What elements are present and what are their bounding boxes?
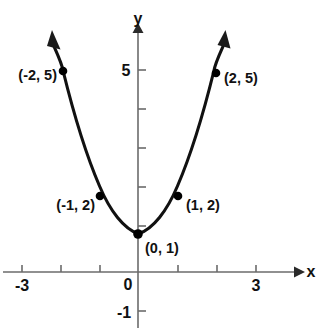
point-marker-0-1: [133, 229, 143, 239]
y-tick-label-5: 5: [122, 62, 131, 79]
point-label-neg1-2: (-1, 2): [56, 197, 95, 213]
point-label-neg2-5: (-2, 5): [18, 67, 57, 83]
point-marker-2-5: [212, 69, 221, 78]
origin-tick-label: 0: [124, 276, 133, 293]
x-tick-label-3: 3: [252, 277, 261, 294]
plot-background: [0, 0, 323, 328]
graph-figure: y x -3 3 0 5 -1 (-2, 5) (-1, 2) (0, 1) (…: [0, 0, 323, 328]
point-label-2-5: (2, 5): [224, 70, 258, 86]
x-axis-label: x: [307, 263, 316, 280]
y-axis-label: y: [134, 10, 143, 27]
point-marker-1-2: [174, 192, 183, 201]
point-marker-neg1-2: [96, 192, 105, 201]
y-tick-label--1: -1: [117, 304, 131, 321]
x-tick-label--3: -3: [15, 277, 29, 294]
point-label-1-2: (1, 2): [186, 197, 220, 213]
point-label-0-1: (0, 1): [145, 240, 179, 256]
parabola-plot: y x -3 3 0 5 -1 (-2, 5) (-1, 2) (0, 1) (…: [0, 0, 323, 328]
point-marker-neg2-5: [59, 67, 68, 76]
